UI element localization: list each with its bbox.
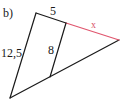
unknown-segment-label: x bbox=[91, 19, 96, 30]
bottom-side-line bbox=[10, 40, 119, 98]
left-side-label: 12,5 bbox=[1, 46, 22, 60]
parallel-segment-label: 8 bbox=[48, 43, 54, 57]
part-label: b) bbox=[3, 6, 13, 20]
triangle-diagram: b) 5 x 12,5 8 bbox=[0, 0, 122, 108]
top-segment-label: 5 bbox=[50, 4, 56, 18]
